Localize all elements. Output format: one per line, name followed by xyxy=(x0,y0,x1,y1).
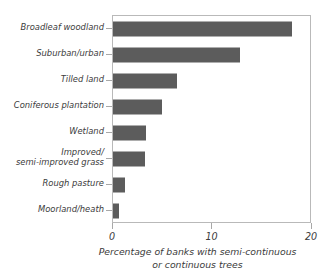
bar xyxy=(113,74,177,89)
bar xyxy=(113,22,292,37)
category-label-coniferous-plantation: Coniferous plantation xyxy=(0,101,104,111)
category-label-moorland-heath: Moorland/heath xyxy=(0,205,104,215)
bar xyxy=(113,100,162,115)
x-axis-tick-label: 20 xyxy=(305,231,317,242)
x-axis-tick-label: 0 xyxy=(109,231,115,242)
category-label-tilled-land: Tilled land xyxy=(0,75,104,85)
x-axis-caption: Percentage of banks with semi-continuous… xyxy=(60,246,335,271)
x-axis-tick xyxy=(211,223,212,229)
x-axis-tick-label: 10 xyxy=(205,231,217,242)
bar xyxy=(113,152,145,167)
category-label-suburban-urban: Suburban/urban xyxy=(0,49,104,59)
category-label-broadleaf-woodland: Broadleaf woodland xyxy=(0,23,104,33)
category-label-wetland: Wetland xyxy=(0,127,104,137)
category-label-improved-semi-improved-grass: Improved/ semi-improved grass xyxy=(0,148,104,167)
bar xyxy=(113,204,119,219)
category-label-rough-pasture: Rough pasture xyxy=(0,179,104,189)
bar xyxy=(113,48,240,63)
plot-area xyxy=(112,15,311,223)
bar xyxy=(113,178,125,193)
x-axis-tick xyxy=(112,223,113,229)
bar xyxy=(113,126,146,141)
category-axis-labels: Broadleaf woodland Suburban/urban Tilled… xyxy=(0,15,104,223)
x-axis-tick xyxy=(311,223,312,229)
bar-chart: Broadleaf woodland Suburban/urban Tilled… xyxy=(0,0,335,279)
